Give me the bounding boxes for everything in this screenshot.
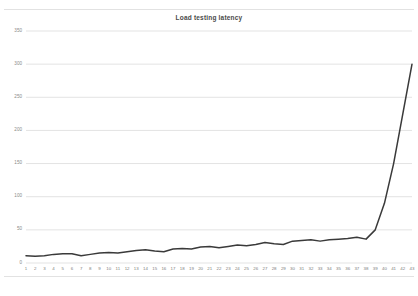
y-axis-tick-label: 250: [0, 95, 22, 100]
y-axis-tick-label: 50: [0, 227, 22, 232]
y-axis-tick-label: 100: [0, 194, 22, 199]
y-axis-tick-labels: 050100150200250300350: [0, 0, 418, 296]
y-axis-tick-label: 150: [0, 161, 22, 166]
y-axis-tick-label: 350: [0, 29, 22, 34]
x-axis-tick-label: 43: [407, 267, 417, 271]
chart-container: Load testing latency 0501001502002503003…: [0, 0, 418, 296]
y-axis-tick-label: 200: [0, 128, 22, 133]
y-axis-tick-label: 300: [0, 62, 22, 67]
y-axis-tick-label: 0: [0, 261, 22, 266]
x-axis-tick-labels: 1234567891011121314151617181920212223242…: [0, 267, 418, 277]
plot-area: 050100150200250300350 123456789101112131…: [0, 0, 418, 296]
